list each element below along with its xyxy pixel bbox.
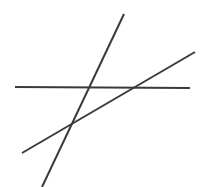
figure-canvas — [0, 0, 210, 187]
figure-background — [0, 0, 210, 187]
horizontal-line — [15, 87, 190, 88]
line-figure-svg — [0, 0, 210, 187]
